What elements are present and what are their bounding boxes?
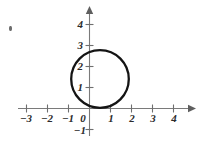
y-tick-label-4: 4 bbox=[78, 19, 84, 30]
y-tick-label-2: 2 bbox=[78, 61, 84, 72]
x-tick-label-1: 1 bbox=[108, 113, 114, 124]
x-tick-label--2: −2 bbox=[41, 113, 53, 124]
x-tick-label-4: 4 bbox=[171, 113, 177, 124]
graph-figure: −3 −2 −1 0 1 2 3 4 4 3 2 1 −1 bbox=[0, 0, 202, 143]
x-axis-arrowhead bbox=[188, 105, 196, 112]
x-tick-label--3: −3 bbox=[20, 113, 32, 124]
x-tick-label-0: 0 bbox=[80, 113, 86, 124]
y-axis-arrowhead bbox=[86, 6, 93, 14]
y-tick-label-1: 1 bbox=[78, 82, 84, 93]
x-tick-label-3: 3 bbox=[150, 113, 156, 124]
y-tick-label-3: 3 bbox=[78, 40, 84, 51]
scan-speck bbox=[9, 26, 12, 31]
x-tick-label-2: 2 bbox=[129, 113, 135, 124]
y-tick-label--1: −1 bbox=[74, 125, 86, 136]
x-tick-label--1: −1 bbox=[62, 113, 74, 124]
